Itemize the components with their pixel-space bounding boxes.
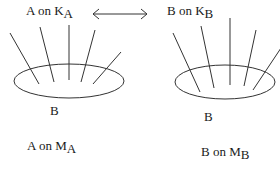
right-top-label-text: B on K — [167, 3, 205, 18]
left-field-line-1 — [10, 33, 39, 84]
right-field-line-4 — [244, 30, 256, 86]
right-bottom-label-text: B on M — [201, 144, 241, 159]
left-field-line-2 — [40, 27, 54, 82]
left-right-arrow-icon — [93, 9, 147, 19]
left-bottom-label-subscript: A — [67, 141, 76, 156]
left-bottom-label-text: A on M — [27, 138, 67, 153]
left-field-line-5 — [93, 52, 121, 84]
right-top-label-subscript: B — [205, 6, 214, 21]
right-bottom-label-subscript: B — [241, 147, 250, 162]
left-top-label-text: A on K — [26, 3, 64, 18]
right-field-line-1 — [173, 33, 200, 92]
left-inner-label: B — [50, 104, 59, 117]
right-bottom-label: B on MB — [201, 145, 249, 158]
right-top-label: B on KB — [167, 4, 213, 17]
right-field-line-2 — [201, 26, 214, 88]
left-field-line-4 — [81, 30, 95, 82]
left-top-label-subscript: A — [64, 6, 73, 21]
left-bottom-label: A on MA — [27, 139, 76, 152]
right-inner-label: B — [204, 110, 213, 123]
left-top-label: A on KA — [26, 4, 73, 17]
